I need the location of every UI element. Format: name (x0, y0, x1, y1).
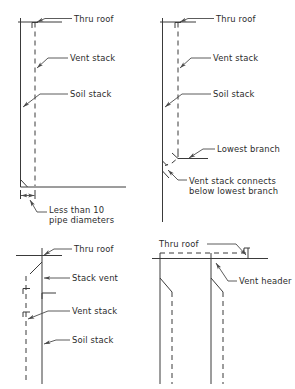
stack-a-diagonal-bottom-right (160, 278, 172, 292)
label-soil-stack-top-left: Soil stack (70, 89, 112, 99)
label-dimension-line2-top-left: pipe diameters (49, 215, 114, 225)
stack-b-diagonal-bottom-right (211, 278, 223, 292)
leader-soil-stack-bottom-left (44, 340, 70, 344)
diagram-canvas: Thru roof Vent stack Soil stack Less tha… (0, 0, 295, 389)
label-thru-roof-bottom-left: Thru roof (73, 244, 115, 254)
label-vent-header-bottom-right: Vent header (239, 276, 292, 286)
leader-vent-stack-bottom-left (28, 311, 70, 319)
label-stack-vent-bottom-left: Stack vent (72, 273, 119, 283)
leader-soil-stack-top-right (165, 94, 211, 107)
leader-vent-connects-top-right (168, 170, 187, 180)
label-connects-line2-top-right: below lowest branch (189, 186, 278, 196)
panel-top-right: Thru roof Vent stack Soil stack Lowest b… (160, 14, 280, 223)
leader-vent-stack-top-left (37, 58, 68, 68)
label-connects-line1-top-right: Vent stack connects (189, 176, 276, 186)
leader-thru-roof-top-right (180, 19, 214, 23)
diagonal-connector-bottom-left (30, 262, 42, 274)
label-dimension-line1-top-left: Less than 10 (49, 205, 104, 215)
panel-top-left: Thru roof Vent stack Soil stack Less tha… (18, 14, 126, 226)
label-thru-roof-bottom-right: Thru roof (158, 239, 200, 249)
leader-soil-stack-top-left (23, 94, 68, 107)
panel-bottom-right: Thru roof Vent header (152, 239, 292, 385)
leader-vent-header-bottom-right (216, 263, 237, 281)
lowest-branch-fitting-top-right (172, 153, 178, 159)
label-thru-roof-top-right: Thru roof (215, 14, 257, 24)
label-vent-stack-bottom-left: Vent stack (72, 306, 117, 316)
label-soil-stack-bottom-left: Soil stack (72, 335, 114, 345)
label-thru-roof-top-left: Thru roof (73, 14, 115, 24)
vent-stack-connection-fitting-top-right (163, 161, 168, 166)
label-vent-stack-top-right: Vent stack (213, 53, 258, 63)
lower-fitting-top-right (163, 171, 170, 178)
base-elbow-top-left (21, 180, 28, 188)
panel-bottom-left: Thru roof Stack vent Vent stack Soil sta… (16, 244, 119, 385)
leader-thru-roof-bottom-left (44, 249, 72, 255)
plumbing-vent-diagram-figure: Thru roof Vent stack Soil stack Less tha… (0, 0, 295, 389)
label-vent-stack-top-left: Vent stack (70, 53, 115, 63)
leader-dimension-top-left (30, 200, 47, 212)
leader-thru-roof-top-left (37, 19, 72, 23)
label-soil-stack-top-right: Soil stack (213, 89, 255, 99)
leader-lowest-branch-top-right (189, 149, 215, 158)
label-lowest-branch-top-right: Lowest branch (217, 144, 280, 154)
vent-stack-connection-sweep-top-right (165, 152, 178, 166)
leader-vent-stack-top-right (180, 58, 211, 68)
